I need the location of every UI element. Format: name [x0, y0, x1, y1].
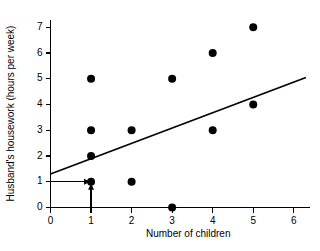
- x-axis-title: Number of children: [146, 228, 230, 239]
- y-axis-tick-label: 6: [37, 47, 43, 58]
- y-axis-tick-label: 5: [37, 72, 43, 83]
- y-axis-tick-label: 0: [37, 201, 43, 212]
- x-axis-tick-label: 4: [210, 215, 216, 226]
- data-point: [168, 204, 176, 212]
- y-axis-title: Husband's housework (hours per week): [5, 26, 16, 202]
- data-point: [209, 49, 217, 57]
- x-axis-tick-label: 0: [48, 215, 54, 226]
- y-axis-tick-label: 3: [37, 124, 43, 135]
- x-axis-tick-label: 3: [169, 215, 175, 226]
- regression-line: [51, 77, 306, 174]
- x-axis-tick-label: 5: [250, 215, 256, 226]
- data-point: [168, 75, 176, 83]
- x-axis-tick-label: 1: [88, 215, 94, 226]
- y-axis-tick-label: 4: [37, 98, 43, 109]
- y-axis-tick-label: 2: [37, 150, 43, 161]
- data-point: [87, 178, 95, 186]
- data-point: [128, 126, 136, 134]
- scatter-plot-figure: 012345670123456Number of childrenHusband…: [0, 0, 320, 251]
- data-point: [209, 126, 217, 134]
- plot-svg: 012345670123456Number of childrenHusband…: [0, 0, 320, 251]
- data-point: [249, 23, 257, 31]
- x-axis-tick-label: 2: [129, 215, 135, 226]
- data-point: [249, 100, 257, 108]
- y-axis-tick-label: 1: [37, 175, 43, 186]
- data-point: [128, 178, 136, 186]
- data-point: [87, 152, 95, 160]
- y-axis-tick-label: 7: [37, 21, 43, 32]
- data-point: [87, 75, 95, 83]
- data-point: [87, 126, 95, 134]
- x-axis-tick-label: 6: [291, 215, 297, 226]
